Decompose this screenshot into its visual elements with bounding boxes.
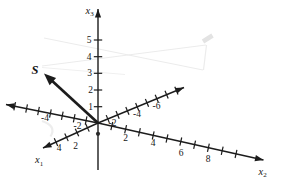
bleed-through-line: [42, 45, 206, 66]
coordinate-axes-figure: 12345x32468x2-2-4-2-4-624x1S: [0, 0, 283, 182]
bleed-through-curve: [42, 121, 52, 137]
x3-tick-label: 1: [88, 102, 93, 112]
x3-tick-label: 3: [87, 68, 92, 78]
x1-tick-label: 4: [57, 143, 62, 153]
x2-negative-tick: [26, 104, 28, 112]
x2-negative-tick: [50, 109, 52, 117]
x2-axis-label: x2: [258, 166, 268, 180]
x3-axis-arrowhead: [95, 9, 101, 18]
x2-negative-tick: [85, 116, 87, 124]
x2-tick-label: 2: [123, 133, 128, 143]
x2-negative-tick: [61, 112, 63, 120]
x1-negative-tick-label: -2: [109, 118, 117, 128]
x2-negative-tick: [38, 107, 40, 115]
x2-negative-tick-label: -2: [74, 121, 82, 131]
axis-point-dot: [96, 132, 100, 136]
x2-negative-axis-line: [6, 105, 98, 124]
bleed-through-line: [204, 45, 207, 70]
x3-tick-label: 5: [87, 35, 92, 45]
x1-axis-arrowhead: [43, 142, 52, 148]
x1-negative-tick-label: -6: [153, 101, 161, 111]
x2-tick-label: 8: [206, 154, 211, 164]
bleed-through-line: [44, 38, 203, 70]
vector-s-label: S: [32, 63, 39, 77]
x1-negative-tick-label: -4: [133, 109, 141, 119]
x2-negative-tick-label: -4: [41, 113, 49, 123]
bleed-through-line: [203, 36, 213, 42]
x3-tick-label: 4: [87, 52, 92, 62]
x1-tick-label: 2: [73, 141, 78, 151]
bleed-through-line: [42, 68, 125, 75]
figure-root: 12345x32468x2-2-4-2-4-624x1S: [0, 0, 283, 182]
x1-negative-axis-arrowhead: [175, 88, 184, 94]
x3-axis-label: x3: [85, 5, 95, 19]
x2-tick-label: 6: [179, 148, 184, 158]
x1-axis-label: x1: [34, 154, 44, 168]
x2-negative-axis-arrowhead: [6, 103, 15, 109]
x3-tick-label: 2: [88, 85, 93, 95]
x2-tick-label: 4: [151, 138, 156, 148]
